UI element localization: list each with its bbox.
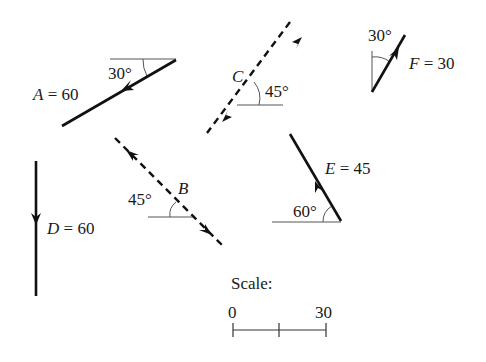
vector-f: 30° F = 30 bbox=[368, 26, 454, 92]
vector-e-label: E = 45 bbox=[324, 159, 370, 178]
vector-f-magnitude: 30 bbox=[437, 54, 454, 73]
vector-b-angle-arc bbox=[170, 202, 176, 217]
vector-f-name: F bbox=[408, 54, 420, 73]
vector-d-label: D = 60 bbox=[46, 219, 94, 238]
vector-c-angle-label: 45° bbox=[265, 82, 289, 101]
vector-b: 45° B bbox=[115, 138, 224, 247]
vector-e-magnitude: 45 bbox=[353, 159, 370, 178]
scale-title: Scale: bbox=[231, 274, 273, 293]
scale-start-label: 0 bbox=[228, 303, 237, 322]
vector-c: C 45° bbox=[207, 22, 302, 133]
vector-a-angle-arc bbox=[143, 59, 147, 76]
vector-diagram: 30° A = 60 C 45° 30° F = 30 45° B D = 60 bbox=[0, 0, 486, 362]
vector-d: D = 60 bbox=[31, 161, 94, 296]
vector-c-line bbox=[207, 22, 290, 133]
vector-b-label: B bbox=[178, 179, 189, 198]
vector-e: 60° E = 45 bbox=[272, 134, 370, 222]
scale-legend: Scale: 0 30 bbox=[228, 274, 332, 337]
vector-a-angle-label: 30° bbox=[108, 64, 132, 83]
vector-b-arrowhead-down-icon bbox=[199, 224, 212, 235]
vector-a-magnitude: 60 bbox=[61, 85, 78, 104]
vector-c-arrowhead-up-icon bbox=[292, 37, 302, 49]
vector-e-angle-label: 60° bbox=[293, 202, 317, 221]
vector-a: 30° A = 60 bbox=[32, 59, 176, 126]
vector-f-label: F = 30 bbox=[408, 54, 454, 73]
vector-f-angle-label: 30° bbox=[368, 26, 392, 45]
vector-c-label: C bbox=[232, 67, 244, 86]
vector-d-name: D bbox=[46, 219, 60, 238]
vector-a-name: A bbox=[32, 85, 44, 104]
scale-end-label: 30 bbox=[315, 303, 332, 322]
vector-a-label: A = 60 bbox=[32, 85, 78, 104]
vector-f-angle-arc bbox=[372, 57, 390, 62]
vector-d-magnitude: 60 bbox=[77, 219, 94, 238]
vector-c-angle-arc bbox=[254, 82, 260, 105]
vector-e-angle-arc bbox=[323, 206, 332, 222]
vector-b-angle-label: 45° bbox=[128, 190, 152, 209]
vector-e-name: E bbox=[324, 159, 336, 178]
